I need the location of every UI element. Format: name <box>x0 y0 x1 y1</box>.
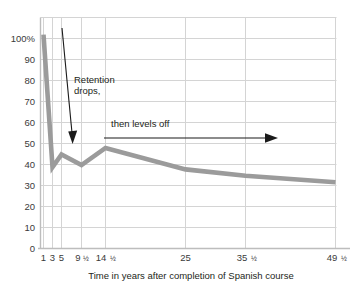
x-tick-label: 25 <box>180 252 191 263</box>
x-tick-label: 35 <box>237 252 248 263</box>
x-tick-label: 49 <box>327 252 338 263</box>
x-tick-label: 14 <box>96 252 107 263</box>
x-tick-labels: 1 3 5 9 ½ 14 ½ 25 35 ½ 49 ½ <box>41 252 347 263</box>
x-tick-label-fraction: ½ <box>83 255 89 262</box>
y-tick-label: 100% <box>11 33 36 44</box>
y-tick-label: 30 <box>24 180 35 191</box>
annotation-retention-line2: drops, <box>74 85 100 96</box>
x-tick-label: 5 <box>59 252 64 263</box>
y-tick-label: 90 <box>24 54 35 65</box>
y-tick-labels: 100% 90 80 70 60 50 40 30 20 10 0 <box>11 33 36 254</box>
y-tick-label: 40 <box>24 159 35 170</box>
y-tick-label: 50 <box>24 138 35 149</box>
y-tick-label: 80 <box>24 75 35 86</box>
y-tick-label: 70 <box>24 96 35 107</box>
y-tick-label: 20 <box>24 201 35 212</box>
annotation-levels-off-text: then levels off <box>111 118 170 129</box>
y-tick-label: 0 <box>30 243 35 254</box>
y-tick-label: 10 <box>24 222 35 233</box>
x-tick-label: 1 <box>41 252 46 263</box>
x-tick-label-fraction: ½ <box>110 255 116 262</box>
y-tick-label: 60 <box>24 117 35 128</box>
x-tick-label: 9 <box>75 252 80 263</box>
x-tick-label-fraction: ½ <box>341 255 347 262</box>
x-tick-label-fraction: ½ <box>251 255 257 262</box>
x-tick-label: 3 <box>50 252 55 263</box>
annotation-retention-line1: Retention <box>74 74 115 85</box>
retention-line-chart: 100% 90 80 70 60 50 40 30 20 10 0 Retent… <box>0 0 363 291</box>
plot-area-background <box>41 18 337 248</box>
chart-figure: 100% 90 80 70 60 50 40 30 20 10 0 Retent… <box>0 0 363 291</box>
x-axis-title: Time in years after completion of Spanis… <box>88 270 294 281</box>
